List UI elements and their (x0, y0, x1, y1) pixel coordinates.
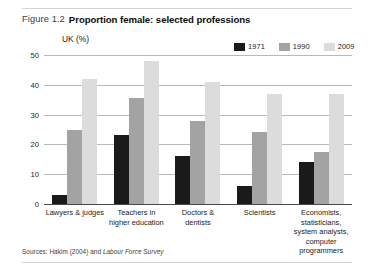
bar-group (167, 55, 229, 204)
chart-plot-area: 01020304050 (44, 55, 352, 204)
legend-swatch-icon (324, 43, 335, 51)
source-note: Sources: Hakim (2004) and Labour Force S… (22, 248, 164, 255)
legend-swatch-icon (279, 43, 290, 51)
bar-group (229, 55, 291, 204)
legend-item: 1990 (279, 42, 310, 51)
bar-1971 (175, 156, 190, 204)
legend-label: 1990 (293, 42, 310, 51)
y-axis-tick-label: 0 (35, 200, 39, 209)
x-axis-label: Doctors & dentists (167, 208, 229, 256)
bar-1971 (237, 186, 252, 204)
x-axis-line (44, 204, 352, 205)
y-axis-tick-label: 30 (31, 110, 39, 119)
legend-label: 1971 (248, 42, 265, 51)
bar-1990 (190, 121, 205, 204)
legend-label: 2009 (338, 42, 355, 51)
bar-groups (44, 55, 352, 204)
top-divider (22, 8, 352, 9)
bar-1990 (67, 130, 82, 205)
bar-1971 (114, 135, 129, 204)
bar-group (290, 55, 352, 204)
figure-container: Figure 1.2Proportion female: selected pr… (0, 0, 374, 279)
chart-legend: 197119902009 (234, 42, 355, 51)
y-axis-tick-label: 50 (31, 51, 39, 60)
bar-group (106, 55, 168, 204)
bar-2009 (205, 82, 220, 204)
y-axis-tick-label: 40 (31, 80, 39, 89)
bar-group (44, 55, 106, 204)
bar-1971 (52, 195, 67, 204)
bar-1990 (129, 98, 144, 204)
source-italic: Labour Force Survey (103, 248, 164, 255)
y-axis-tick-label: 20 (31, 140, 39, 149)
legend-swatch-icon (234, 43, 245, 51)
y-axis-tick-label: 10 (31, 170, 39, 179)
bottom-divider (22, 262, 352, 263)
figure-header: Figure 1.2Proportion female: selected pr… (22, 14, 362, 44)
x-axis-label: Scientists (229, 208, 291, 256)
bar-2009 (82, 79, 97, 204)
figure-title: Proportion female: selected professions (69, 14, 250, 25)
bar-2009 (267, 94, 282, 204)
bar-1971 (299, 162, 314, 204)
bar-2009 (329, 94, 344, 204)
bar-1990 (252, 132, 267, 204)
bar-2009 (144, 61, 159, 204)
source-prefix: Sources: Hakim (2004) and (22, 248, 103, 255)
figure-number: Figure 1.2 (22, 14, 65, 24)
legend-item: 1971 (234, 42, 265, 51)
x-axis-label: Economists, statisticians, system analys… (290, 208, 352, 256)
legend-item: 2009 (324, 42, 355, 51)
bar-1990 (314, 152, 329, 204)
